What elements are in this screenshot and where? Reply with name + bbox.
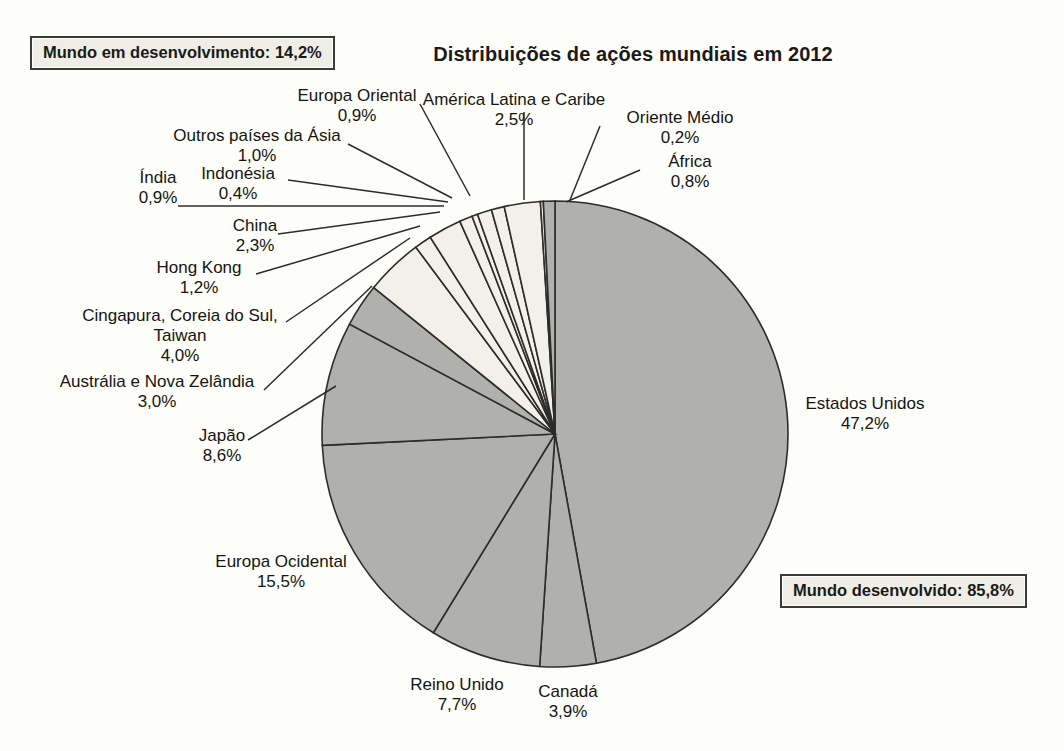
label-value: 0,9%: [120, 188, 196, 208]
label-name: Cingapura, Coreia do Sul,: [66, 306, 294, 326]
label-name: América Latina e Caribe: [416, 90, 612, 110]
label-value: 15,5%: [198, 572, 364, 592]
label-value: 2,5%: [416, 110, 612, 130]
label-oriente-medio: Oriente Médio 0,2%: [610, 108, 750, 148]
label-name: Canadá: [520, 682, 616, 702]
label-name: Europa Oriental: [282, 86, 432, 106]
label-name: Europa Ocidental: [198, 552, 364, 572]
label-name: Oriente Médio: [610, 108, 750, 128]
leader-line: [566, 170, 640, 202]
label-hong-kong: Hong Kong 1,2%: [136, 258, 262, 298]
label-reino-unido: Reino Unido 7,7%: [394, 675, 520, 715]
label-value: 0,2%: [610, 128, 750, 148]
label-outros-paises-asia: Outros países da Ásia 1,0%: [164, 126, 350, 166]
label-china: China 2,3%: [216, 216, 294, 256]
label-name: Índia: [120, 168, 196, 188]
label-name: Estados Unidos: [790, 394, 940, 414]
label-cingapura-coreia-taiwan: Cingapura, Coreia do Sul, Taiwan 4,0%: [66, 306, 294, 366]
label-value: 8,6%: [182, 446, 262, 466]
label-value: 1,2%: [136, 278, 262, 298]
label-name: África: [638, 152, 742, 172]
label-name: Hong Kong: [136, 258, 262, 278]
label-value: 0,8%: [638, 172, 742, 192]
label-name-2: Taiwan: [66, 326, 294, 346]
label-europa-oriental: Europa Oriental 0,9%: [282, 86, 432, 126]
label-africa: África 0,8%: [638, 152, 742, 192]
label-value: 4,0%: [66, 346, 294, 366]
label-name: Outros países da Ásia: [164, 126, 350, 146]
label-australia-nova-zelandia: Austrália e Nova Zelândia 3,0%: [46, 372, 268, 412]
label-value: 2,3%: [216, 236, 294, 256]
leader-line: [278, 212, 440, 234]
chart-canvas: Distribuições de ações mundiais em 2012 …: [0, 0, 1064, 751]
label-india: Índia 0,9%: [120, 168, 196, 208]
label-value: 0,9%: [282, 106, 432, 126]
label-america-latina: América Latina e Caribe 2,5%: [416, 90, 612, 130]
label-value: 3,0%: [46, 392, 268, 412]
pie-slice: [555, 201, 788, 663]
label-value: 7,7%: [394, 695, 520, 715]
pie-slices: [322, 201, 788, 667]
label-name: Reino Unido: [394, 675, 520, 695]
callout-developed-world: Mundo desenvolvido: 85,8%: [780, 574, 1027, 608]
label-estados-unidos: Estados Unidos 47,2%: [790, 394, 940, 434]
label-value: 3,9%: [520, 702, 616, 722]
callout-developing-world: Mundo em desenvolvimento: 14,2%: [30, 36, 335, 70]
label-canada: Canadá 3,9%: [520, 682, 616, 722]
label-value: 47,2%: [790, 414, 940, 434]
label-name: Austrália e Nova Zelândia: [46, 372, 268, 392]
label-name: Japão: [182, 426, 262, 446]
label-japao: Japão 8,6%: [182, 426, 262, 466]
label-name: China: [216, 216, 294, 236]
label-europa-ocidental: Europa Ocidental 15,5%: [198, 552, 364, 592]
